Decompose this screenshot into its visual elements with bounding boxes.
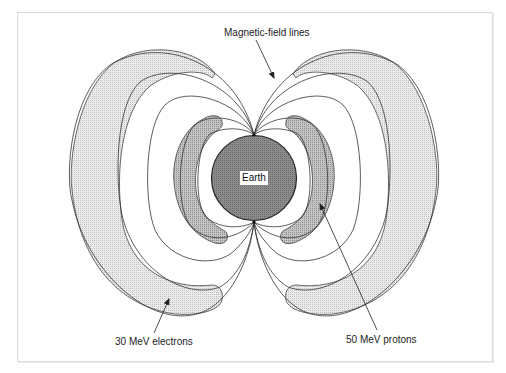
magnetic-field-arrow xyxy=(256,40,274,78)
electron-belt-left xyxy=(71,50,222,315)
radiation-belts-diagram xyxy=(0,0,506,373)
south-pole-marker xyxy=(252,220,255,223)
north-pole-marker xyxy=(252,133,255,136)
electrons-label: 30 MeV electrons xyxy=(115,336,193,347)
protons-label: 50 MeV protons xyxy=(346,334,417,345)
electron-belt-right xyxy=(286,50,437,315)
earth-label: Earth xyxy=(240,171,268,185)
magnetic-field-lines-label: Magnetic-field lines xyxy=(224,27,310,38)
